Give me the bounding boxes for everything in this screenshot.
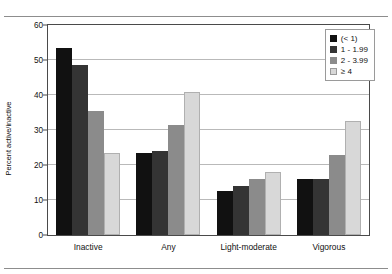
bar[interactable]	[345, 121, 361, 235]
bar-fill	[233, 186, 249, 235]
top-divider-rule	[4, 16, 388, 17]
legend-item[interactable]: ≥ 4	[330, 66, 368, 77]
legend-item[interactable]: 1 - 1.99	[330, 44, 368, 55]
bar-fill	[88, 111, 104, 235]
plot-area	[47, 24, 370, 236]
bar-fill	[249, 179, 265, 235]
bar[interactable]	[88, 111, 104, 235]
bar-fill	[345, 121, 361, 235]
bar-fill	[168, 125, 184, 235]
legend: (< 1)1 - 1.992 - 3.99≥ 4	[325, 29, 375, 81]
legend-label: 1 - 1.99	[341, 44, 368, 55]
y-axis-tick-label: 50	[17, 56, 43, 65]
legend-swatch	[330, 68, 337, 75]
bar-chart: Percent active/inactive 0102030405060 In…	[0, 18, 392, 244]
bar[interactable]	[56, 48, 72, 235]
bar-group	[136, 25, 200, 235]
bottom-divider-rule	[4, 268, 388, 269]
bar[interactable]	[168, 125, 184, 235]
legend-swatch	[330, 57, 337, 64]
bar[interactable]	[313, 179, 329, 235]
bar[interactable]	[184, 92, 200, 236]
legend-label: (< 1)	[341, 33, 358, 44]
y-axis-tick-label: 0	[17, 231, 43, 240]
bar[interactable]	[152, 151, 168, 235]
bar-series-container	[48, 25, 369, 235]
legend-item[interactable]: (< 1)	[330, 33, 368, 44]
legend-item[interactable]: 2 - 3.99	[330, 55, 368, 66]
bar-fill	[329, 155, 345, 236]
legend-label: 2 - 3.99	[341, 55, 368, 66]
bar-fill	[297, 179, 313, 235]
bar-fill	[104, 153, 120, 235]
y-axis-tick-label: 30	[17, 126, 43, 135]
bar[interactable]	[217, 191, 233, 235]
y-axis-tick-label: 10	[17, 196, 43, 205]
legend-swatch	[330, 46, 337, 53]
bar-group	[56, 25, 120, 235]
figure-page: Percent active/inactive 0102030405060 In…	[0, 0, 392, 274]
bar-fill	[136, 153, 152, 235]
bar[interactable]	[329, 155, 345, 236]
y-axis-tick-label: 20	[17, 161, 43, 170]
y-axis-ticks: 0102030405060	[16, 18, 47, 236]
bar-fill	[265, 172, 281, 235]
bar-fill	[313, 179, 329, 235]
legend-label: ≥ 4	[341, 66, 352, 77]
x-axis-labels: InactiveAnyLight-moderateVigorous	[47, 242, 370, 258]
bar-fill	[152, 151, 168, 235]
x-axis-tick-label: Inactive	[74, 242, 103, 252]
bar-fill	[217, 191, 233, 235]
scan-artifact-text	[4, 3, 388, 10]
x-axis-tick-label: Any	[161, 242, 175, 252]
bar[interactable]	[233, 186, 249, 235]
x-axis-tick-label: Vigorous	[312, 242, 345, 252]
bar[interactable]	[249, 179, 265, 235]
bar[interactable]	[72, 65, 88, 235]
y-axis-title-text: Percent active/inactive	[5, 101, 14, 175]
bar-fill	[72, 65, 88, 235]
y-axis-title: Percent active/inactive	[2, 78, 16, 198]
bar-fill	[56, 48, 72, 235]
bar[interactable]	[104, 153, 120, 235]
bar[interactable]	[297, 179, 313, 235]
y-axis-tick-label: 40	[17, 91, 43, 100]
bar[interactable]	[265, 172, 281, 235]
bar[interactable]	[136, 153, 152, 235]
y-axis-tick-label: 60	[17, 21, 43, 30]
legend-swatch	[330, 35, 337, 42]
bar-group	[217, 25, 281, 235]
x-axis-tick-label: Light-moderate	[220, 242, 276, 252]
bar-fill	[184, 92, 200, 236]
